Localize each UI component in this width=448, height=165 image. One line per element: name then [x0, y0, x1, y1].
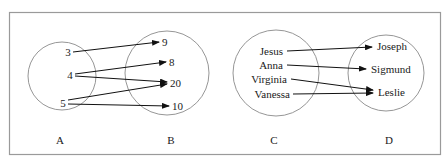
set-c-element: Jesus: [260, 45, 283, 57]
set-c-element: Anna: [259, 59, 283, 71]
set-a-element: 3: [65, 46, 71, 58]
set-d-element: Joseph: [377, 40, 407, 52]
set-c-label: C: [270, 134, 277, 146]
mapping-diagram: 3 4 5 9 8 20 10 A B Jesus Anna Virginia …: [0, 0, 448, 165]
set-b-label: B: [167, 134, 174, 146]
set-c-element: Vanessa: [255, 88, 291, 100]
set-d-element: Leslie: [378, 86, 405, 98]
mapping-arrow-5-to-10: [68, 104, 169, 106]
set-b-element: 20: [170, 77, 182, 89]
mapping-arrow-4-to-20: [75, 76, 167, 82]
mapping-arrow-vanessa-to-leslie: [293, 93, 373, 94]
mapping-arrow-anna-to-sigmund: [287, 65, 366, 69]
mapping-arrow-jesus-to-joseph: [287, 47, 372, 51]
set-a-element: 5: [60, 97, 66, 109]
set-d-element: Sigmund: [371, 63, 411, 75]
set-b-element: 8: [169, 56, 175, 68]
set-a-element: 4: [67, 69, 73, 81]
relation-c-to-d: Jesus Anna Virginia Vanessa Joseph Sigmu…: [233, 30, 424, 146]
set-c-element: Virginia: [251, 73, 287, 85]
set-d-label: D: [385, 134, 393, 146]
set-b-element: 10: [172, 100, 184, 112]
mapping-arrow-3-to-9: [73, 42, 159, 52]
set-a-label: A: [56, 134, 64, 146]
set-b-element: 9: [162, 36, 168, 48]
diagram-frame: [10, 13, 441, 155]
mapping-arrow-4-to-8: [75, 62, 166, 74]
relation-a-to-b: 3 4 5 9 8 20 10 A B: [28, 31, 209, 146]
mapping-arrow-virginia-to-leslie: [291, 79, 373, 90]
mapping-arrow-5-to-20: [68, 84, 167, 100]
